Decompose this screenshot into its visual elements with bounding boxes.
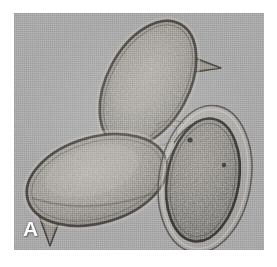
panel-letter-label: A bbox=[23, 218, 38, 239]
dark-granule-right-1 bbox=[187, 137, 192, 142]
micrograph-image bbox=[14, 13, 264, 250]
figure-panel: A bbox=[0, 0, 277, 267]
dark-granule-right-2 bbox=[222, 163, 226, 167]
micrograph-canvas bbox=[14, 13, 264, 250]
